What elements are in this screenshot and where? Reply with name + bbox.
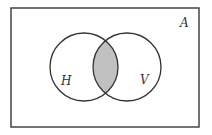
venn-diagram: A H V — [0, 0, 212, 135]
set-h-label: H — [60, 74, 72, 88]
set-v-label: V — [140, 73, 150, 87]
universe-label: A — [179, 16, 189, 30]
